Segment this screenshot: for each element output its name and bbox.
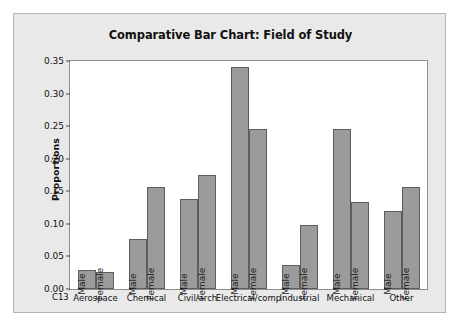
y-axis-tick-mark bbox=[66, 289, 70, 290]
y-axis-tick-mark bbox=[66, 256, 70, 257]
bar-male-0: Male bbox=[78, 270, 96, 289]
y-axis-tick: 0.25 bbox=[44, 121, 70, 131]
y-axis-tick: 0.20 bbox=[44, 154, 70, 164]
bar-male-3: Male bbox=[231, 67, 249, 289]
bar-female-4: Female bbox=[300, 225, 318, 289]
y-axis-tick: 0.10 bbox=[44, 219, 70, 229]
plot-area: 0.000.050.100.150.200.250.300.35MaleFema… bbox=[69, 60, 428, 290]
bar-label: Male bbox=[78, 273, 87, 294]
bar-male-5: Male bbox=[333, 129, 351, 289]
y-axis-tick: 0.30 bbox=[44, 89, 70, 99]
chart-panel: Comparative Bar Chart: Field of Study Pr… bbox=[13, 13, 446, 313]
y-axis-tick-mark bbox=[66, 126, 70, 127]
x-axis-category-label: Mechanical bbox=[327, 293, 375, 303]
bar-label: Male bbox=[282, 273, 291, 294]
y-axis-tick-mark bbox=[66, 158, 70, 159]
x-axis-category-label: Chemical bbox=[127, 293, 166, 303]
x-axis-category-label: Electrical/comp bbox=[216, 293, 281, 303]
y-axis-tick-mark bbox=[66, 93, 70, 94]
bar-label: Male bbox=[333, 273, 342, 294]
bar-female-1: Female bbox=[147, 187, 165, 289]
y-axis-tick-mark bbox=[66, 61, 70, 62]
x-axis-variable-label: C13 bbox=[52, 292, 69, 302]
y-axis-label: Proportions bbox=[50, 125, 61, 215]
bar-label: Male bbox=[231, 273, 240, 294]
bar-label: Male bbox=[180, 273, 189, 294]
y-axis-tick: 0.05 bbox=[44, 251, 70, 261]
bar-male-1: Male bbox=[129, 239, 147, 289]
x-axis-category-label: Aerospace bbox=[73, 293, 117, 303]
bar-male-4: Male bbox=[282, 265, 300, 289]
bar-male-6: Male bbox=[384, 211, 402, 289]
y-axis-tick: 0.35 bbox=[44, 56, 70, 66]
x-axis-category-label: Industrial bbox=[280, 293, 320, 303]
bar-female-0: Female bbox=[96, 272, 114, 289]
bar-label: Male bbox=[129, 273, 138, 294]
x-axis-category-label: Other bbox=[389, 293, 413, 303]
bar-label: Male bbox=[384, 273, 393, 294]
bar-female-2: Female bbox=[198, 175, 216, 289]
y-axis-tick-mark bbox=[66, 223, 70, 224]
bar-male-2: Male bbox=[180, 199, 198, 289]
bar-female-3: Female bbox=[249, 129, 267, 289]
y-axis-tick-mark bbox=[66, 191, 70, 192]
bar-female-5: Female bbox=[351, 202, 369, 289]
chart-title: Comparative Bar Chart: Field of Study bbox=[14, 28, 447, 42]
bar-female-6: Female bbox=[402, 187, 420, 289]
x-axis-category-label: Civil/arch bbox=[178, 293, 218, 303]
y-axis-tick: 0.15 bbox=[44, 186, 70, 196]
